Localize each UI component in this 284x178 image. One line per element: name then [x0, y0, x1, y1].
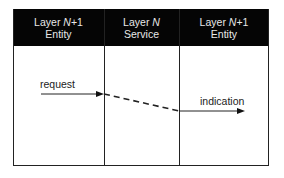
arrows-overlay: [0, 0, 284, 178]
arrowhead-icon: [237, 108, 245, 114]
indication-arrow: [179, 108, 245, 114]
arrowhead-icon: [96, 91, 104, 97]
request-arrow: [41, 91, 104, 97]
service-dashed-line: [104, 94, 179, 111]
